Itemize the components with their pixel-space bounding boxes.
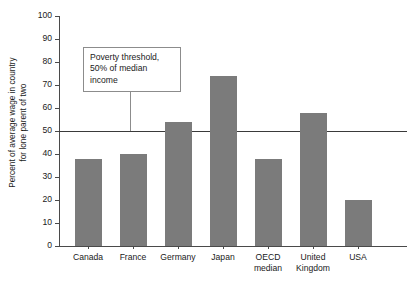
x-tick-mark-germany: [178, 246, 179, 249]
y-tick-80: 80: [25, 62, 59, 63]
y-tick-label-60: 60: [42, 102, 52, 112]
annotation-leader-line: [130, 92, 131, 131]
bar-chart-figure: Percent of average wage in country for l…: [0, 0, 410, 285]
y-tick-40: 40: [25, 154, 59, 155]
x-axis-label-usa: USA: [349, 252, 367, 263]
y-tick-label-0: 0: [47, 240, 52, 250]
y-tick-90: 90: [25, 39, 59, 40]
x-axis-label-oecd-median-line1: OECD: [256, 252, 281, 262]
annotation-line3: income: [90, 75, 175, 86]
x-axis-label-germany: Germany: [160, 252, 195, 263]
y-axis-title: Percent of average wage in country for l…: [0, 0, 36, 250]
bar-oecd-median: [255, 159, 282, 246]
y-tick-label-50: 50: [42, 125, 52, 135]
x-tick-mark-usa: [358, 246, 359, 249]
y-tick-mark-60: [55, 108, 59, 109]
y-tick-0: 0: [25, 246, 59, 247]
y-tick-label-80: 80: [42, 56, 52, 66]
poverty-threshold-annotation: Poverty threshold, 50% of median income: [83, 47, 181, 92]
x-axis-label-japan-line1: Japan: [211, 252, 234, 262]
bar-canada: [75, 159, 102, 246]
x-axis-label-oecd-median: OECD median: [254, 252, 282, 273]
x-tick-mark-france: [133, 246, 134, 249]
x-axis-label-france-line1: France: [120, 252, 147, 262]
y-tick-mark-20: [55, 200, 59, 201]
x-axis-label-germany-line1: Germany: [160, 252, 195, 262]
y-tick-label-90: 90: [42, 33, 52, 43]
bar-france: [120, 154, 147, 246]
bar-united-kingdom: [300, 113, 327, 246]
y-tick-mark-70: [55, 85, 59, 86]
y-tick-mark-0: [55, 246, 59, 247]
x-axis-label-usa-line1: USA: [349, 252, 367, 262]
x-axis-label-united-kingdom: United Kingdom: [296, 252, 330, 273]
annotation-line2: 50% of median: [90, 63, 175, 74]
x-axis-label-oecd-median-line2: median: [254, 263, 282, 274]
bar-germany: [165, 122, 192, 246]
y-tick-label-70: 70: [42, 79, 52, 89]
y-tick-mark-10: [55, 223, 59, 224]
y-tick-50: 50: [25, 131, 59, 132]
y-tick-label-100: 100: [38, 10, 52, 20]
y-tick-mark-30: [55, 177, 59, 178]
y-tick-30: 30: [25, 177, 59, 178]
annotation-line1: Poverty threshold,: [90, 52, 175, 63]
x-tick-mark-japan: [223, 246, 224, 249]
y-axis-title-line1: Percent of average wage in country: [7, 57, 17, 188]
x-tick-mark-united-kingdom: [313, 246, 314, 249]
x-axis-label-france: France: [120, 252, 147, 263]
y-tick-100: 100: [25, 16, 59, 17]
y-tick-label-30: 30: [42, 171, 52, 181]
y-tick-60: 60: [25, 108, 59, 109]
x-axis-label-canada-line1: Canada: [73, 252, 103, 262]
x-axis-label-united-kingdom-line1: United: [301, 252, 326, 262]
bar-usa: [345, 200, 372, 246]
x-axis-label-japan: Japan: [211, 252, 234, 263]
x-tick-mark-canada: [88, 246, 89, 249]
y-tick-label-10: 10: [42, 217, 52, 227]
y-tick-mark-90: [55, 39, 59, 40]
y-tick-label-40: 40: [42, 148, 52, 158]
x-tick-mark-oecd-median: [268, 246, 269, 249]
y-tick-mark-100: [55, 16, 59, 17]
bar-japan: [210, 76, 237, 246]
y-tick-mark-80: [55, 62, 59, 63]
x-axis-label-canada: Canada: [73, 252, 103, 263]
x-axis-label-united-kingdom-line2: Kingdom: [296, 263, 330, 274]
y-tick-10: 10: [25, 223, 59, 224]
x-axis-line: [59, 246, 407, 247]
y-tick-20: 20: [25, 200, 59, 201]
y-tick-mark-40: [55, 154, 59, 155]
y-tick-70: 70: [25, 85, 59, 86]
y-tick-label-20: 20: [42, 194, 52, 204]
